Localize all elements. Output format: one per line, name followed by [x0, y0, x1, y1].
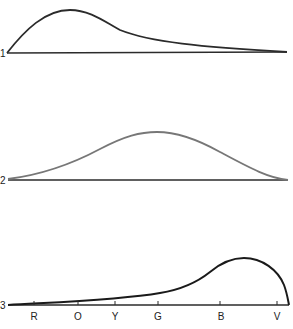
curve-2-label: 2 — [0, 175, 6, 186]
spectral-curves-diagram: 1 2 3 R O Y G B V — [0, 0, 293, 329]
tick-label-o: O — [74, 311, 82, 322]
tick-label-r: R — [30, 311, 37, 322]
curve-2-group: 2 — [0, 132, 288, 186]
tick-label-y: Y — [112, 311, 119, 322]
curve-3 — [8, 258, 289, 305]
tick-label-g: G — [154, 311, 162, 322]
tick-label-b: B — [218, 311, 225, 322]
curve-3-label: 3 — [0, 300, 6, 311]
curve-3-group: 3 R O Y G B V — [0, 258, 289, 322]
curve-1-group: 1 — [0, 10, 287, 59]
tick-label-v: V — [274, 311, 281, 322]
curve-1-label: 1 — [0, 48, 6, 59]
curve-2 — [8, 132, 288, 180]
curve-1-baseline — [7, 52, 287, 53]
curve-1 — [7, 10, 287, 53]
